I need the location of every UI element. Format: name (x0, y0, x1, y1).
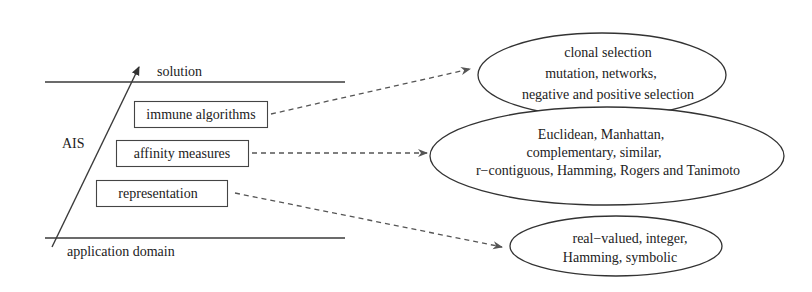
ellipse-line: Euclidean, Manhattan, (538, 127, 664, 142)
ais-layered-framework-diagram: solution application domain AIS immune a… (0, 0, 812, 292)
ellipse-line: mutation, networks, (545, 66, 657, 81)
ellipse-line: clonal selection (564, 45, 651, 60)
ellipse-representation-examples: real−valued, integer, Hamming, symbolic (510, 216, 722, 276)
ellipse-immune-algorithms-examples: clonal selection mutation, networks, neg… (478, 33, 726, 117)
ellipse-affinity-measures-examples: Euclidean, Manhattan, complementary, sim… (430, 107, 784, 205)
application-domain-label: application domain (67, 244, 175, 259)
layer-label: immune algorithms (146, 107, 255, 122)
ellipse-line: real−valued, integer, (572, 231, 687, 246)
connector-arrow-icon (235, 193, 502, 247)
solution-label: solution (157, 64, 202, 79)
layer-box-affinity-measures: affinity measures (117, 141, 249, 167)
ellipse-line: negative and positive selection (522, 87, 694, 102)
ellipse-line: complementary, similar, (527, 145, 662, 160)
layer-label: affinity measures (134, 146, 231, 161)
layer-label: representation (118, 186, 197, 201)
ais-label: AIS (62, 136, 85, 151)
ellipse-line: Hamming, symbolic (563, 250, 677, 265)
connector-arrow-icon (271, 69, 470, 114)
layer-box-representation: representation (97, 181, 228, 207)
ellipse-line: r−contiguous, Hamming, Rogers and Tanimo… (476, 163, 740, 178)
layer-box-immune-algorithms: immune algorithms (135, 102, 268, 128)
